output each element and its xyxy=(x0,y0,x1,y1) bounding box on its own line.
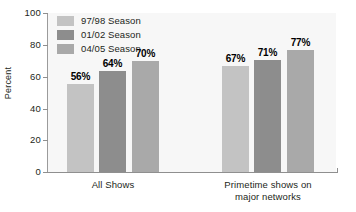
legend-label-04-05: 04/05 Season xyxy=(81,43,141,54)
x-category-label-all-shows: All Shows xyxy=(68,179,158,191)
bar-value-g2-s3: 77% xyxy=(283,37,318,48)
y-tick-label-80: 80 xyxy=(11,40,41,50)
y-axis-title: Percent xyxy=(3,53,13,113)
y-tick-label-20: 20 xyxy=(11,135,41,145)
bar-value-g2-s2: 71% xyxy=(250,47,285,58)
y-tick-label-60: 60 xyxy=(11,72,41,82)
y-tick-label-100: 100 xyxy=(11,8,41,18)
y-tick-label-40: 40 xyxy=(11,104,41,114)
bar-value-g1-s1: 56% xyxy=(63,71,98,82)
y-tick-100 xyxy=(43,13,48,14)
y-tick-80 xyxy=(43,45,48,46)
legend-swatch-04-05 xyxy=(57,44,74,54)
y-tick-label-0: 0 xyxy=(11,167,41,177)
y-tick-0 xyxy=(43,172,48,173)
x-axis-end-cap xyxy=(337,168,338,173)
y-tick-40 xyxy=(43,109,48,110)
x-category-label-primetime-line1: Primetime shows on xyxy=(208,179,328,191)
legend-swatch-01-02 xyxy=(57,30,74,40)
bar-g1-s1 xyxy=(67,84,94,172)
legend: 97/98 Season 01/02 Season 04/05 Season xyxy=(57,14,141,56)
bar-g2-s3 xyxy=(287,50,314,172)
legend-item-01-02: 01/02 Season xyxy=(57,28,141,41)
y-axis-line xyxy=(47,13,48,173)
y-tick-20 xyxy=(43,140,48,141)
bar-g2-s2 xyxy=(254,60,281,172)
legend-label-97-98: 97/98 Season xyxy=(81,15,141,26)
legend-swatch-97-98 xyxy=(57,16,74,26)
bar-g1-s3 xyxy=(132,61,159,172)
y-tick-60 xyxy=(43,77,48,78)
bar-value-g1-s2: 64% xyxy=(95,58,130,69)
x-axis-line xyxy=(44,172,338,173)
x-category-label-primetime-line2: major networks xyxy=(208,191,328,203)
bar-value-g2-s1: 67% xyxy=(218,53,253,64)
bar-chart: 100 80 60 40 20 0 Percent 56% 64% 70% 67… xyxy=(0,0,356,212)
bar-g1-s2 xyxy=(99,71,126,172)
legend-item-04-05: 04/05 Season xyxy=(57,42,141,55)
bar-g2-s1 xyxy=(222,66,249,172)
legend-item-97-98: 97/98 Season xyxy=(57,14,141,27)
legend-label-01-02: 01/02 Season xyxy=(81,29,141,40)
